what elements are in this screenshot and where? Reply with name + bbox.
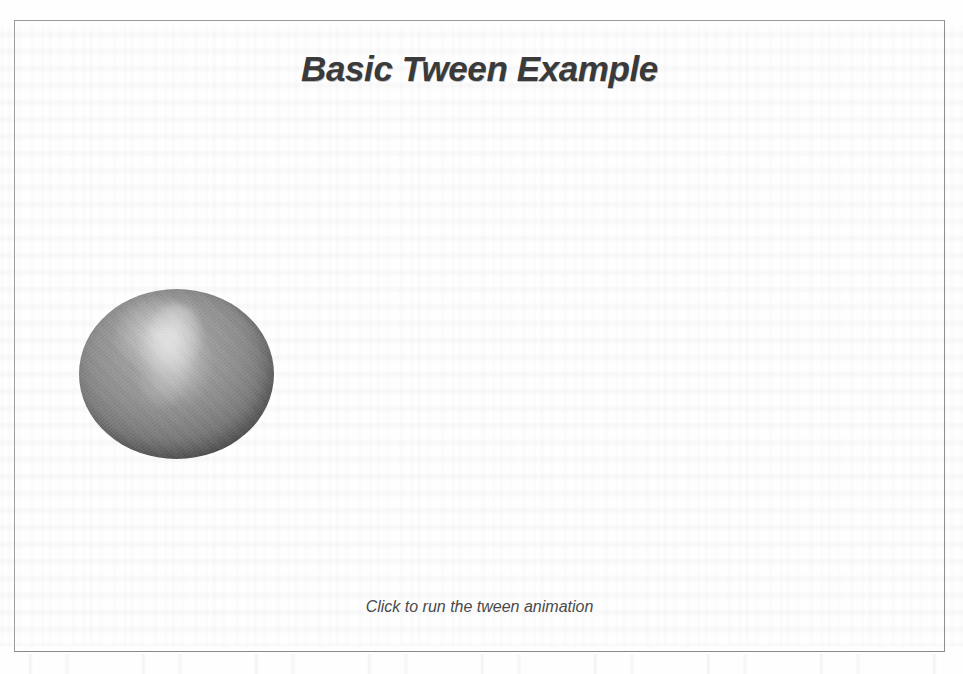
scanner-noise-artifacts <box>0 654 963 674</box>
animation-stage[interactable] <box>15 265 944 455</box>
scanned-page-background: Basic Tween Example Click to run the twe… <box>0 0 963 674</box>
applet-frame[interactable]: Basic Tween Example Click to run the twe… <box>14 20 945 652</box>
tween-sphere[interactable] <box>79 289 274 459</box>
instruction-caption: Click to run the tween animation <box>15 597 944 617</box>
page-title: Basic Tween Example <box>15 50 944 88</box>
